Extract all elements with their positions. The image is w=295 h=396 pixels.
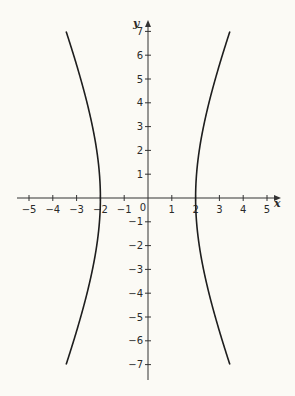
y-tick-label: 1 bbox=[137, 169, 143, 180]
origin-label: 0 bbox=[140, 202, 146, 213]
y-tick-label: 5 bbox=[137, 74, 143, 85]
y-tick-label: −7 bbox=[128, 359, 143, 370]
y-tick-label: −6 bbox=[128, 335, 143, 346]
x-tick-label: 4 bbox=[240, 204, 246, 215]
x-axis-label: x bbox=[273, 197, 281, 210]
hyperbola-chart: −5−4−3−2−1123450−7−6−5−4−3−2−11234567 x … bbox=[0, 0, 295, 396]
y-tick-label: 2 bbox=[137, 145, 143, 156]
x-tick-label: 3 bbox=[216, 204, 222, 215]
y-axis-arrow-icon bbox=[145, 20, 151, 27]
x-tick-label: −3 bbox=[69, 204, 84, 215]
x-tick-label: 5 bbox=[264, 204, 270, 215]
x-tick-label: −4 bbox=[45, 204, 60, 215]
y-tick-label: 6 bbox=[137, 50, 143, 61]
x-tick-label: −5 bbox=[22, 204, 37, 215]
y-tick-label: −3 bbox=[128, 264, 143, 275]
x-tick-label: 1 bbox=[169, 204, 175, 215]
axes bbox=[17, 20, 281, 380]
y-tick-label: −4 bbox=[128, 288, 143, 299]
y-tick-label: −5 bbox=[128, 312, 143, 323]
y-tick-label: 4 bbox=[137, 97, 143, 108]
y-tick-label: −1 bbox=[128, 216, 143, 227]
x-tick-label: −1 bbox=[117, 204, 132, 215]
y-tick-label: 3 bbox=[137, 121, 143, 132]
y-tick-label: −2 bbox=[128, 240, 143, 251]
